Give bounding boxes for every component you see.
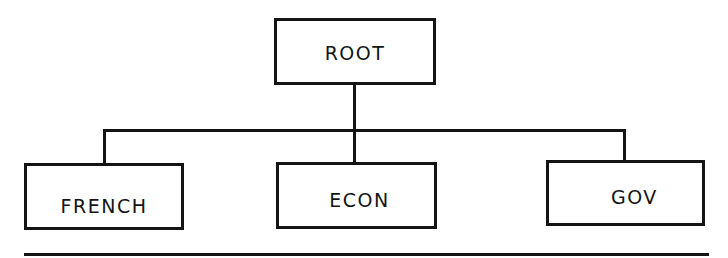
bottom-rule-divider <box>24 253 709 256</box>
econ-node-label: ECON <box>329 189 389 211</box>
horizontal-bus-connector <box>103 129 626 132</box>
root-node: ROOT <box>274 18 436 85</box>
french-node-label: FRENCH <box>61 195 148 217</box>
french-drop-connector <box>103 130 106 165</box>
root-node-label: ROOT <box>325 42 386 64</box>
french-node: FRENCH <box>24 163 184 230</box>
gov-node: GOV <box>546 160 705 226</box>
tree-diagram: ROOT FRENCH ECON GOV <box>0 0 728 258</box>
econ-node: ECON <box>276 162 437 229</box>
gov-drop-connector <box>623 129 626 163</box>
root-stem-connector <box>353 84 356 164</box>
gov-node-label: GOV <box>611 186 658 208</box>
